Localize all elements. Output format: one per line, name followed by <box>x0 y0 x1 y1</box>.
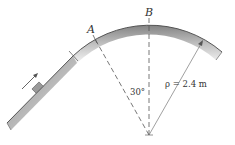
label-point-b: B <box>144 6 153 19</box>
track-diagram: A B 30° ρ = 2.4 m <box>0 0 235 145</box>
track <box>7 25 222 130</box>
label-radius: ρ = 2.4 m <box>165 79 207 89</box>
incline-shading <box>7 56 77 130</box>
label-point-a: A <box>86 23 95 36</box>
label-angle: 30° <box>130 87 145 97</box>
